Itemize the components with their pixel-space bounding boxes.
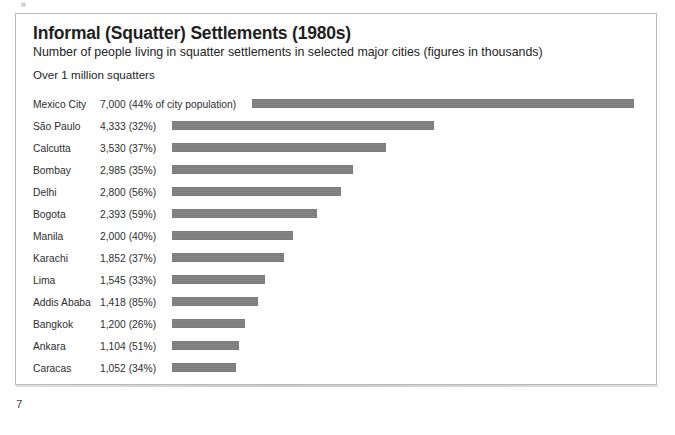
bar-track (33, 225, 646, 247)
bar (172, 297, 258, 306)
bar (252, 99, 634, 108)
page-number: 7 (16, 398, 22, 410)
bar (172, 341, 239, 350)
bar-chart-rows: Mexico City7,000 (44% of city population… (33, 93, 646, 379)
section-label: Over 1 million squatters (33, 67, 646, 82)
bar-track (33, 291, 646, 313)
bar (172, 275, 265, 284)
bar-track (33, 269, 646, 291)
chart-row: Mexico City7,000 (44% of city population… (33, 93, 646, 115)
figure-card: Informal (Squatter) Settlements (1980s) … (15, 13, 657, 385)
chart-row: Ankara1,104 (51%) (33, 335, 646, 357)
bar-track (33, 115, 646, 137)
chart-row: Bangkok1,200 (26%) (33, 313, 646, 335)
chart-row: Calcutta3,530 (37%) (33, 137, 646, 159)
bar-track (33, 159, 646, 181)
bar-track (33, 313, 646, 335)
bar (172, 121, 434, 130)
chart-row: Bogota2,393 (59%) (33, 203, 646, 225)
bar (172, 363, 236, 372)
bar-track (33, 335, 646, 357)
bar (172, 165, 353, 174)
bar (172, 253, 284, 262)
bar-track (33, 203, 646, 225)
chart-row: Caracas1,052 (34%) (33, 357, 646, 379)
scan-artifact-speck (21, 2, 26, 7)
bar-track (33, 181, 646, 203)
bar-track (33, 247, 646, 269)
chart-row: Manila2,000 (40%) (33, 225, 646, 247)
bar-track (33, 357, 646, 379)
figure-subtitle: Number of people living in squatter sett… (33, 44, 646, 60)
chart-row: Karachi1,852 (37%) (33, 247, 646, 269)
bar-track (33, 137, 646, 159)
bar (172, 143, 386, 152)
chart-row: Addis Ababa1,418 (85%) (33, 291, 646, 313)
chart-row: São Paulo4,333 (32%) (33, 115, 646, 137)
bar (172, 209, 317, 218)
figure-content: Informal (Squatter) Settlements (1980s) … (33, 23, 646, 379)
bar (172, 231, 293, 240)
figure-title: Informal (Squatter) Settlements (1980s) (33, 23, 646, 43)
chart-row: Lima1,545 (33%) (33, 269, 646, 291)
bar-track (33, 93, 646, 115)
bar (172, 187, 341, 196)
bar (172, 319, 245, 328)
chart-row: Bombay2,985 (35%) (33, 159, 646, 181)
chart-row: Delhi2,800 (56%) (33, 181, 646, 203)
